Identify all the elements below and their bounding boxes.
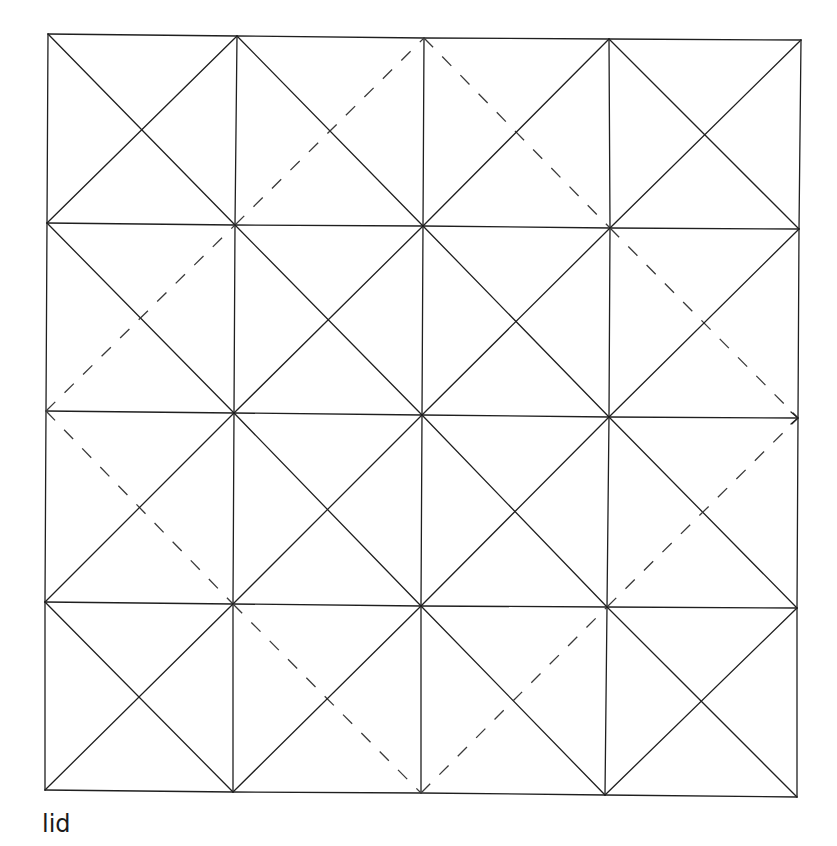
mountain-fold-line bbox=[233, 415, 422, 604]
mountain-fold-line bbox=[422, 415, 607, 607]
valley-fold-line bbox=[607, 418, 798, 607]
valley-fold-line bbox=[46, 225, 235, 411]
mountain-fold-line bbox=[423, 39, 609, 226]
mountain-fold-line bbox=[421, 417, 609, 606]
mountain-fold-line bbox=[45, 413, 234, 602]
valley-fold-line bbox=[235, 38, 424, 225]
fold-pattern-diagram bbox=[0, 0, 837, 846]
mountain-fold-line bbox=[234, 226, 423, 413]
mountain-fold-line bbox=[47, 36, 237, 223]
mountain-fold-line bbox=[422, 228, 610, 415]
mountain-fold-line bbox=[45, 604, 233, 790]
mountain-fold-line bbox=[609, 229, 799, 417]
mountain-fold-line bbox=[605, 608, 797, 795]
mountain-fold-line bbox=[233, 606, 421, 792]
diagram-caption: lid bbox=[42, 812, 71, 836]
